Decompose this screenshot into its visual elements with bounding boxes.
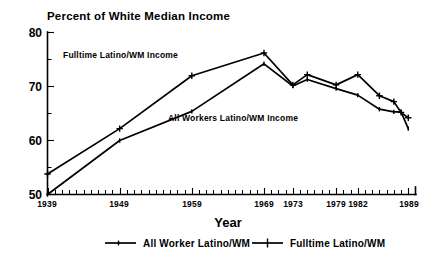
chart-title: Percent of White Median Income bbox=[47, 10, 230, 22]
series-line-all-workers bbox=[48, 64, 409, 195]
x-tick-label-1969: 1969 bbox=[254, 199, 274, 209]
chart-figure: Percent of White Median Income 80 70 60 … bbox=[0, 0, 444, 258]
series-markers-all-workers bbox=[48, 62, 409, 197]
y-axis-tick-labels: 80 70 60 50 bbox=[29, 26, 43, 202]
x-tick-label-1989: 1989 bbox=[399, 199, 419, 209]
chart-legend: All Worker Latino/WM Fulltime Latino/WM bbox=[105, 238, 385, 249]
annotation-all-workers: All Workers Latino/WM Income bbox=[168, 113, 298, 123]
annotation-fulltime: Fulltime Latino/WM Income bbox=[63, 50, 178, 60]
x-tick-label-1982: 1982 bbox=[348, 199, 368, 209]
legend-label-fulltime: Fulltime Latino/WM bbox=[290, 238, 385, 249]
x-tick-label-1959: 1959 bbox=[182, 199, 202, 209]
x-axis-label: Year bbox=[214, 215, 241, 230]
x-tick-label-1939: 1939 bbox=[37, 199, 57, 209]
legend-label-all-worker: All Worker Latino/WM bbox=[143, 238, 250, 249]
y-tick-label-60: 60 bbox=[29, 134, 43, 148]
legend-entry-fulltime[interactable]: Fulltime Latino/WM bbox=[252, 238, 385, 249]
legend-entry-all-worker[interactable]: All Worker Latino/WM bbox=[105, 238, 250, 249]
x-tick-label-1949: 1949 bbox=[109, 199, 129, 209]
x-tick-label-1979: 1979 bbox=[326, 199, 346, 209]
x-axis-tick-labels: 1939 1949 1959 1969 1973 1979 1982 1989 bbox=[37, 199, 419, 209]
x-tick-label-1973: 1973 bbox=[283, 199, 303, 209]
y-tick-label-70: 70 bbox=[29, 80, 43, 94]
line-chart: Percent of White Median Income 80 70 60 … bbox=[0, 0, 444, 258]
y-tick-label-80: 80 bbox=[29, 26, 43, 40]
